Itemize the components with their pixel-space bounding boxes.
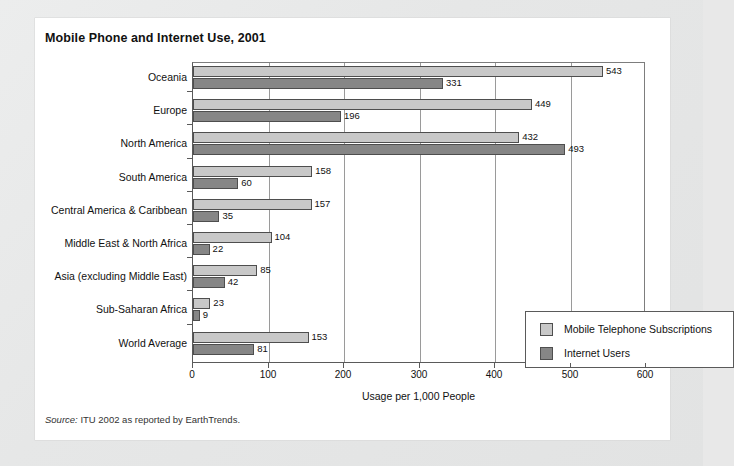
legend-swatch-mobile-icon [540, 323, 553, 336]
category-label: Oceania [148, 71, 187, 83]
y-axis-tick [187, 158, 193, 159]
bar-mobile [193, 132, 519, 143]
bar-mobile [193, 332, 309, 343]
y-axis-tick [187, 224, 193, 225]
bar-value-label: 9 [203, 308, 208, 322]
category-label: Europe [153, 104, 187, 116]
source-note: Source: ITU 2002 as reported by EarthTre… [45, 414, 240, 425]
legend-label-mobile: Mobile Telephone Subscriptions [564, 323, 712, 335]
bar-value-label: 104 [275, 230, 291, 244]
chart-legend: Mobile Telephone Subscriptions Internet … [525, 311, 734, 368]
plot-area: 5433314491964324931586015735104228542239… [192, 62, 645, 363]
bar-value-label: 196 [344, 109, 360, 123]
legend-label-internet: Internet Users [564, 347, 630, 359]
category-label: World Average [119, 337, 188, 349]
x-axis-tick [645, 363, 646, 368]
bar-internet [193, 144, 565, 155]
x-axis-tick [268, 363, 269, 368]
bar-group: 15735 [193, 199, 644, 223]
y-axis-tick [187, 324, 193, 325]
category-label: North America [120, 137, 187, 149]
bar-value-label: 22 [213, 242, 224, 256]
bar-value-label: 81 [257, 342, 268, 356]
source-text: ITU 2002 as reported by EarthTrends. [78, 414, 240, 425]
bar-mobile [193, 99, 532, 110]
bar-value-label: 157 [315, 197, 331, 211]
bar-group: 543331 [193, 66, 644, 90]
x-axis-tick-label: 600 [637, 369, 654, 380]
bar-internet [193, 78, 443, 89]
category-label: Middle East & North Africa [64, 237, 187, 249]
bar-mobile [193, 265, 257, 276]
bar-value-label: 35 [222, 209, 233, 223]
x-axis-tick-label: 500 [562, 369, 579, 380]
y-axis-tick [187, 124, 193, 125]
legend-item-internet: Internet Users [540, 345, 630, 361]
x-axis-tick [192, 363, 193, 368]
x-axis-tick [494, 363, 495, 368]
bar-value-label: 158 [315, 164, 331, 178]
bar-value-label: 42 [228, 275, 239, 289]
chart-card: Mobile Phone and Internet Use, 2001 Ocea… [35, 18, 670, 440]
bar-group: 8542 [193, 265, 644, 289]
category-label: South America [119, 171, 187, 183]
bar-value-label: 60 [241, 176, 252, 190]
bar-value-label: 331 [446, 76, 462, 90]
bar-group: 15860 [193, 166, 644, 190]
x-axis-ticks: 0100200300400500600 [192, 363, 645, 387]
bar-mobile [193, 66, 603, 77]
x-axis-tick-label: 100 [260, 369, 277, 380]
bar-mobile [193, 166, 312, 177]
bar-value-label: 543 [606, 64, 622, 78]
y-axis-tick [187, 290, 193, 291]
bar-internet [193, 111, 341, 122]
bar-value-label: 23 [213, 296, 224, 310]
x-axis-tick-label: 0 [189, 369, 195, 380]
bar-mobile [193, 232, 272, 243]
x-axis-tick [570, 363, 571, 368]
x-axis-tick [419, 363, 420, 368]
bar-group: 432493 [193, 132, 644, 156]
x-axis-tick [343, 363, 344, 368]
y-axis-tick [187, 191, 193, 192]
bar-group: 10422 [193, 232, 644, 256]
bar-mobile [193, 199, 312, 210]
x-axis-tick-label: 300 [411, 369, 428, 380]
bar-value-label: 153 [312, 330, 328, 344]
legend-swatch-internet-icon [540, 347, 553, 360]
bar-value-label: 85 [260, 263, 271, 277]
category-label: Central America & Caribbean [51, 204, 187, 216]
category-label: Asia (excluding Middle East) [55, 270, 187, 282]
source-label: Source: [45, 414, 78, 425]
bar-internet [193, 277, 225, 288]
x-axis-tick-label: 400 [486, 369, 503, 380]
bar-internet [193, 244, 210, 255]
bar-group: 449196 [193, 99, 644, 123]
bar-internet [193, 211, 219, 222]
bar-value-label: 449 [535, 97, 551, 111]
legend-item-mobile: Mobile Telephone Subscriptions [540, 321, 712, 337]
bar-internet [193, 310, 200, 321]
bar-value-label: 432 [522, 130, 538, 144]
page-title: Mobile Phone and Internet Use, 2001 [45, 31, 266, 45]
bar-internet [193, 344, 254, 355]
y-axis-tick [187, 257, 193, 258]
x-axis-title: Usage per 1,000 People [192, 390, 645, 402]
bar-value-label: 493 [568, 142, 584, 156]
category-label: Sub-Saharan Africa [96, 303, 187, 315]
x-axis-tick-label: 200 [335, 369, 352, 380]
bar-internet [193, 178, 238, 189]
y-axis-tick [187, 91, 193, 92]
